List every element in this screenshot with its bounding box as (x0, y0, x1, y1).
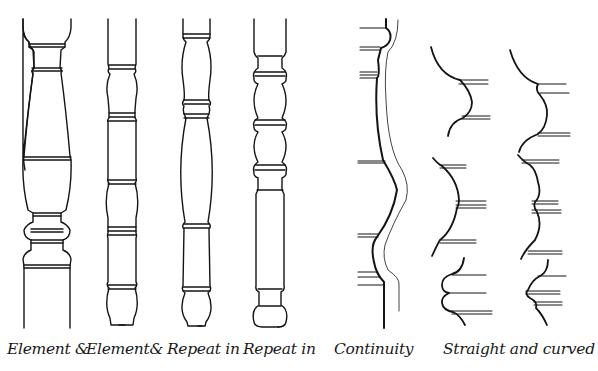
spindle-4-drawing (253, 19, 287, 327)
label-spindle-1: Element & (7, 340, 89, 358)
label-spindle-2: Element& (86, 340, 163, 358)
label-continuity: Continuity (334, 340, 413, 358)
label-straight-and-curved: Straight and curved (443, 340, 595, 358)
straight-curved-profiles-a (431, 47, 492, 325)
straight-curved-profiles-b (510, 50, 570, 325)
continuity-profile-drawing (358, 19, 407, 328)
label-spindle-3: Repeat in (167, 340, 240, 358)
label-spindle-4: Repeat in (243, 340, 316, 358)
baluster-illustration (0, 0, 598, 371)
spindle-3-drawing (181, 19, 213, 326)
spindle-1-drawing (23, 19, 71, 328)
spindle-2-drawing (106, 19, 138, 325)
